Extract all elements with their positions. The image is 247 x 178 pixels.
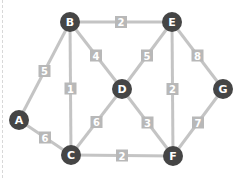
svg-text:E: E [168,16,176,29]
svg-text:2: 2 [119,151,126,162]
node-E: E [162,12,182,32]
svg-text:D: D [117,83,126,96]
svg-text:6: 6 [42,133,49,144]
node-C: C [61,145,81,165]
edge-weight-A-B: 5 [39,65,51,77]
edge-weight-C-D: 6 [91,116,103,128]
svg-text:3: 3 [144,118,151,129]
svg-text:5: 5 [144,51,151,62]
edge-weight-E-F: 2 [167,83,179,95]
weighted-graph: 561426253287 ABCDEFG [0,0,247,178]
edge-weight-A-C: 6 [39,132,51,144]
svg-text:8: 8 [194,51,201,62]
edge-weight-D-E: 5 [141,50,153,62]
edge-weight-B-C: 1 [65,83,77,95]
node-B: B [60,12,80,32]
svg-text:A: A [15,114,24,127]
svg-text:2: 2 [169,84,176,95]
node-D: D [112,79,132,99]
svg-text:5: 5 [41,66,48,77]
svg-text:7: 7 [195,118,202,129]
svg-text:6: 6 [93,117,100,128]
node-F: F [163,146,183,166]
svg-text:4: 4 [93,51,100,62]
svg-text:F: F [169,150,177,163]
edge-weight-E-G: 8 [192,50,204,62]
svg-text:1: 1 [67,84,74,95]
node-G: G [213,79,233,99]
svg-text:C: C [67,149,75,162]
node-A: A [9,110,29,130]
edge-weight-C-F: 2 [116,150,128,162]
svg-text:2: 2 [118,17,125,28]
edge-weight-F-G: 7 [192,117,204,129]
svg-text:B: B [66,16,74,29]
edge-weight-B-D: 4 [90,50,102,62]
edge-weight-D-F: 3 [142,117,154,129]
svg-text:G: G [218,83,227,96]
edge-weight-B-E: 2 [115,16,127,28]
